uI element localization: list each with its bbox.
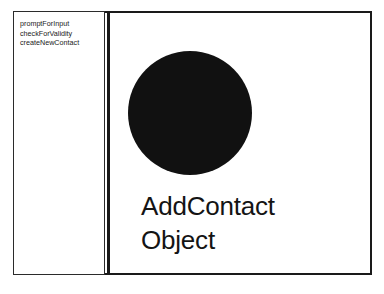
responsibility-item-check-for-validity: checkForValidity bbox=[20, 29, 102, 39]
diagram-canvas: promptForInput checkForValidity createNe… bbox=[0, 0, 384, 294]
responsibility-item-prompt-for-input: promptForInput bbox=[20, 19, 102, 29]
responsibilities-panel: promptForInput checkForValidity createNe… bbox=[13, 11, 105, 275]
responsibility-item-create-new-contact: createNewContact bbox=[20, 38, 102, 48]
object-title-line-2: Object bbox=[141, 223, 366, 257]
responsibility-list: promptForInput checkForValidity createNe… bbox=[20, 19, 102, 48]
object-title-line-1: AddContact bbox=[141, 189, 366, 223]
object-title: AddContact Object bbox=[141, 189, 366, 257]
object-circle-icon bbox=[128, 51, 252, 175]
object-panel: AddContact Object bbox=[110, 13, 370, 273]
